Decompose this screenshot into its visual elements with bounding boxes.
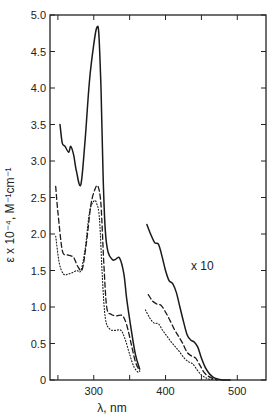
x-tick-label: 400 (156, 385, 174, 397)
x-tick-label: 500 (228, 385, 246, 397)
y-tick-label: 0.5 (31, 338, 46, 350)
curve-dashed (148, 295, 217, 380)
plot-frame (50, 15, 266, 380)
plot-border (50, 15, 266, 380)
y-tick-label: 2.0 (31, 228, 46, 240)
spectrum-curves (56, 26, 230, 380)
y-tick-label: 4.0 (31, 82, 46, 94)
x-axis-title: λ, nm (97, 401, 126, 415)
y-tick-label: 1.5 (31, 265, 46, 277)
curve-dashed (56, 185, 140, 371)
y-tick-label: 0 (40, 374, 46, 386)
scale-annotation-x10: x 10 (191, 259, 214, 273)
y-tick-label: 5.0 (31, 9, 46, 21)
y-tick-label: 1.0 (31, 301, 46, 313)
absorption-spectrum-chart: 00.51.01.52.02.53.03.54.04.55.0 30040050… (0, 0, 280, 420)
y-axis-ticks: 00.51.01.52.02.53.03.54.04.55.0 (31, 9, 266, 386)
curve-dotted (145, 310, 214, 380)
y-tick-label: 3.5 (31, 119, 46, 131)
y-axis-title: ε x 10⁻⁴, M⁻¹cm⁻¹ (3, 167, 17, 262)
y-tick-label: 4.5 (31, 46, 46, 58)
y-tick-label: 3.0 (31, 155, 46, 167)
curve-solid (147, 225, 230, 381)
x-axis-ticks: 300400500 (58, 15, 247, 397)
y-tick-label: 2.5 (31, 192, 46, 204)
x-tick-label: 300 (85, 385, 103, 397)
